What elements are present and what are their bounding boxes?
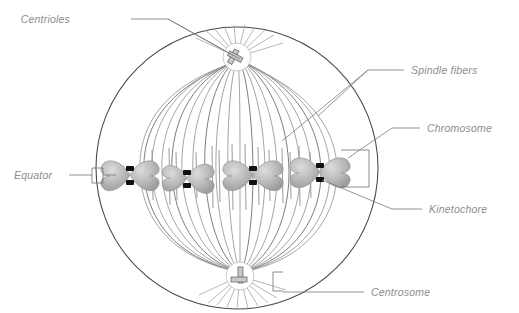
mitosis-diagram: Centrioles Spindle fibers Chromosome Kin… [0,0,519,313]
label-centrosome: Centrosome [371,286,430,298]
kinetochore-4a [316,163,324,168]
kinetochore-3a [249,166,257,171]
label-centrioles: Centrioles [21,13,71,25]
label-kinetochore: Kinetochore [429,203,487,215]
label-spindle-fibers: Spindle fibers [411,64,478,76]
kinetochore-3b [249,180,257,185]
kinetochore-1a [126,166,134,171]
kinetochore-4b [316,177,324,182]
label-chromosome: Chromosome [427,122,492,134]
kinetochore-1b [126,180,134,185]
label-equator: Equator [14,169,52,181]
kinetochore-2b [183,183,191,188]
kinetochore-2a [183,170,191,175]
diagram-canvas: Centrioles Spindle fibers Chromosome Kin… [0,0,519,313]
